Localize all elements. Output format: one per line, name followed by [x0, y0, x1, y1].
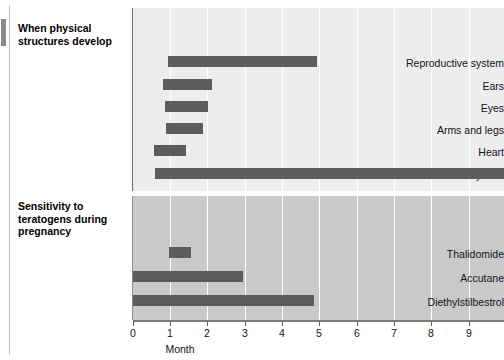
- section-title-line-2: teratogens during: [18, 213, 130, 226]
- gridline-top-1: [170, 8, 171, 191]
- bar-central-nervous-system: [155, 168, 504, 179]
- bar-diethylstilbestrol: [133, 295, 314, 306]
- gridline-top-4: [282, 8, 283, 191]
- gridline-top-3: [245, 8, 246, 191]
- section-title-line-3: pregnancy: [18, 225, 130, 238]
- x-tick-mark-9: [469, 321, 470, 326]
- bar-arms-and-legs: [166, 123, 203, 134]
- gridline-bottom-6: [357, 196, 358, 320]
- bar-ears: [163, 79, 212, 90]
- x-tick-label-1: 1: [160, 327, 180, 339]
- gridline-bottom-5: [319, 196, 320, 320]
- gridline-top-6: [357, 8, 358, 191]
- gridline-top-9: [469, 8, 470, 191]
- x-tick-mark-4: [282, 321, 283, 326]
- bar-heart: [154, 145, 186, 156]
- row-label-ears: Ears: [379, 80, 504, 92]
- bar-reproductive-system: [168, 56, 317, 67]
- x-tick-mark-2: [207, 321, 208, 326]
- gridline-top-8: [431, 8, 432, 191]
- row-label-reproductive-system: Reproductive system: [379, 57, 504, 69]
- x-tick-mark-6: [357, 321, 358, 326]
- gridline-top-7: [394, 8, 395, 191]
- section-title-line-1: Sensitivity to: [18, 200, 130, 213]
- x-tick-label-6: 6: [347, 327, 367, 339]
- bar-thalidomide: [169, 247, 191, 258]
- teratogen-timeline-chart: When physical structures develop Reprodu…: [0, 0, 504, 360]
- x-tick-mark-0: [133, 321, 134, 326]
- x-axis-title: Month: [0, 343, 504, 355]
- x-tick-mark-3: [245, 321, 246, 326]
- x-tick-label-9: 9: [459, 327, 479, 339]
- x-tick-label-4: 4: [272, 327, 292, 339]
- y-axis-line-top: [132, 8, 133, 191]
- x-tick-mark-5: [319, 321, 320, 326]
- section-title-line-1: When physical: [18, 22, 130, 35]
- x-tick-label-7: 7: [384, 327, 404, 339]
- row-label-heart: Heart: [379, 146, 504, 158]
- bar-accutane: [133, 271, 243, 282]
- x-tick-label-8: 8: [421, 327, 441, 339]
- x-tick-label-2: 2: [197, 327, 217, 339]
- row-label-eyes: Eyes: [379, 102, 504, 114]
- section-title-teratogen-sensitivity: Sensitivity to teratogens during pregnan…: [18, 200, 130, 238]
- x-tick-mark-1: [170, 321, 171, 326]
- x-tick-label-0: 0: [123, 327, 143, 339]
- x-tick-mark-8: [431, 321, 432, 326]
- x-tick-mark-7: [394, 321, 395, 326]
- section-title-physical-structures: When physical structures develop: [18, 22, 130, 47]
- page-edge-mark: [1, 19, 6, 46]
- gridline-top-2: [207, 8, 208, 191]
- section-title-line-2: structures develop: [18, 35, 130, 48]
- x-tick-label-3: 3: [235, 327, 255, 339]
- row-label-thalidomide: Thalidomide: [379, 248, 504, 260]
- row-label-accutane: Accutane: [379, 272, 504, 284]
- row-label-arms-and-legs: Arms and legs: [379, 124, 504, 136]
- x-tick-label-5: 5: [309, 327, 329, 339]
- row-label-diethylstilbestrol: Diethylstilbestrol: [379, 296, 504, 308]
- x-axis-title-text: Month: [165, 343, 194, 355]
- page-edge-rule: [9, 6, 10, 354]
- gridline-top-5: [319, 8, 320, 191]
- bar-eyes: [165, 101, 208, 112]
